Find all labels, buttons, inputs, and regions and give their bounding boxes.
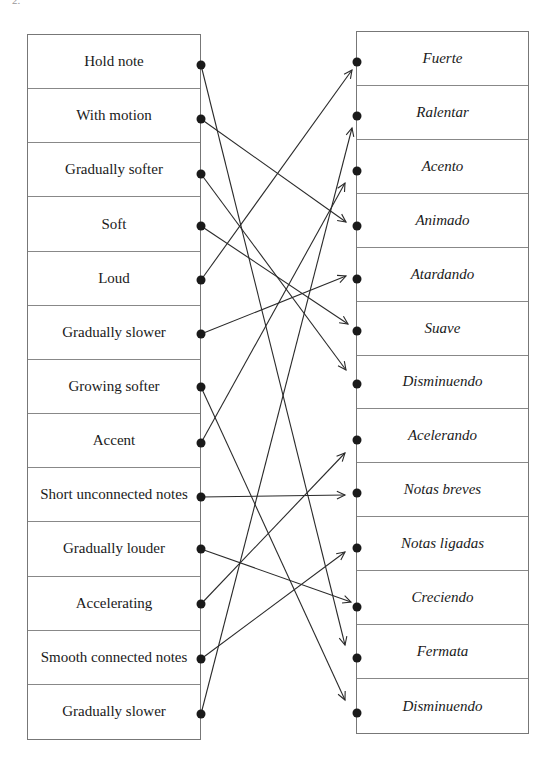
exercise-number: 2.: [12, 0, 20, 6]
arrowhead-icon: [338, 183, 345, 192]
left-term-label: Soft: [101, 216, 126, 233]
right-term-label: Ralentar: [416, 104, 469, 121]
spanish-terms-column: FuerteRalentarAcentoAnimadoAtardandoSuav…: [356, 31, 529, 734]
match-line: [201, 552, 345, 659]
arrowhead-icon: [337, 214, 346, 222]
match-line: [201, 549, 351, 602]
left-term-cell: Hold note: [28, 35, 200, 89]
left-term-label: Gradually slower: [62, 324, 166, 341]
right-term-cell: Fermata: [357, 625, 528, 679]
left-term-cell: Soft: [28, 197, 200, 251]
left-term-label: Accelerating: [76, 595, 153, 612]
match-line: [201, 70, 352, 280]
arrowhead-icon: [346, 128, 354, 137]
right-term-cell: Acento: [357, 140, 528, 194]
right-term-label: Creciendo: [412, 589, 474, 606]
arrowhead-icon: [344, 70, 352, 79]
right-term-label: Acento: [422, 158, 464, 175]
right-term-label: Disminuendo: [403, 373, 483, 390]
left-term-label: Hold note: [84, 53, 144, 70]
right-term-label: Notas ligadas: [401, 535, 484, 552]
right-term-label: Fermata: [417, 643, 469, 660]
arrowhead-icon: [339, 316, 348, 324]
match-line: [201, 387, 345, 700]
right-term-label: Notas breves: [404, 481, 481, 498]
match-line: [201, 495, 345, 497]
left-term-label: Short unconnected notes: [40, 486, 187, 503]
left-term-cell: Smooth connected notes: [28, 631, 200, 685]
left-term-label: Smooth connected notes: [41, 649, 188, 666]
left-term-cell: Accelerating: [28, 577, 200, 631]
left-term-label: Growing softer: [68, 378, 159, 395]
arrowhead-icon: [337, 275, 346, 282]
left-term-cell: Short unconnected notes: [28, 468, 200, 522]
arrowhead-icon: [337, 491, 345, 499]
english-terms-column: Hold noteWith motionGradually softerSoft…: [27, 34, 201, 740]
right-term-cell: Disminuendo: [357, 356, 528, 410]
match-line: [201, 128, 352, 714]
arrowhead-icon: [337, 453, 345, 462]
right-term-cell: Suave: [357, 302, 528, 356]
left-term-cell: Accent: [28, 414, 200, 468]
arrowhead-icon: [339, 636, 347, 645]
left-term-label: Gradually slower: [62, 703, 166, 720]
right-term-label: Fuerte: [423, 50, 463, 67]
left-term-cell: Gradually louder: [28, 522, 200, 576]
right-term-cell: Notas breves: [357, 463, 528, 517]
right-term-label: Atardando: [411, 266, 475, 283]
match-line: [201, 226, 348, 324]
match-line: [201, 183, 345, 443]
right-term-cell: Atardando: [357, 248, 528, 302]
left-term-label: Loud: [98, 270, 130, 287]
arrowhead-icon: [342, 596, 351, 603]
left-term-cell: Gradually slower: [28, 306, 200, 360]
arrowhead-icon: [338, 691, 345, 700]
left-term-label: With motion: [76, 107, 152, 124]
right-term-label: Animado: [415, 212, 469, 229]
left-term-cell: Loud: [28, 252, 200, 306]
left-term-label: Gradually louder: [63, 540, 165, 557]
arrowhead-icon: [338, 361, 346, 370]
match-line: [201, 174, 346, 370]
match-line: [201, 453, 345, 604]
left-term-cell: Growing softer: [28, 360, 200, 414]
right-term-cell: Creciendo: [357, 571, 528, 625]
match-line: [201, 65, 345, 645]
left-term-cell: Gradually softer: [28, 143, 200, 197]
right-term-cell: Fuerte: [357, 32, 528, 86]
right-term-cell: Disminuendo: [357, 679, 528, 733]
match-line: [201, 276, 346, 334]
right-term-cell: Animado: [357, 194, 528, 248]
arrowhead-icon: [336, 552, 345, 560]
left-term-cell: With motion: [28, 89, 200, 143]
left-term-label: Gradually softer: [65, 161, 163, 178]
right-term-label: Suave: [425, 320, 461, 337]
match-line: [201, 119, 346, 222]
right-term-label: Acelerando: [408, 427, 477, 444]
left-term-label: Accent: [93, 432, 135, 449]
right-term-cell: Acelerando: [357, 409, 528, 463]
right-term-cell: Notas ligadas: [357, 517, 528, 571]
right-term-cell: Ralentar: [357, 86, 528, 140]
right-term-label: Disminuendo: [403, 698, 483, 715]
left-term-cell: Gradually slower: [28, 685, 200, 739]
